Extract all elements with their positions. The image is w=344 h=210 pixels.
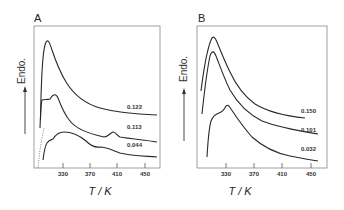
x-axis-title-text: T / K bbox=[88, 185, 112, 197]
panel-a-label: A bbox=[34, 12, 42, 24]
panel-a: A 330 370 410 450 T / K Endo. 0.122 0.11… bbox=[16, 12, 160, 197]
x-axis-title: T / K bbox=[228, 185, 252, 197]
y-axis-title: Endo. bbox=[16, 58, 27, 84]
x-tick-label: 410 bbox=[112, 171, 123, 177]
x-tick-label: 370 bbox=[249, 171, 260, 177]
x-tick-label: 450 bbox=[140, 171, 151, 177]
arrow-head-icon bbox=[23, 86, 27, 92]
dsc-figure: A 330 370 410 450 T / K Endo. 0.122 0.11… bbox=[0, 0, 344, 210]
curve-0-101 bbox=[202, 52, 318, 134]
x-tick-label: 450 bbox=[306, 171, 317, 177]
x-tick-label: 410 bbox=[277, 171, 288, 177]
x-tick-label: 330 bbox=[58, 171, 69, 177]
curve-0-113 bbox=[40, 95, 157, 142]
panel-b: B 330 370 410 450 T / K Endo. 0.150 0.10… bbox=[178, 12, 327, 197]
dotted-baseline bbox=[38, 128, 44, 168]
panel-b-label: B bbox=[198, 12, 205, 24]
curve-0-150 bbox=[201, 37, 305, 118]
curve-label: 0.150 bbox=[301, 108, 317, 114]
arrow-head-icon bbox=[182, 88, 186, 94]
x-tick-label: 330 bbox=[221, 171, 232, 177]
x-axis-title-text: T / K bbox=[228, 185, 252, 197]
y-axis-title: Endo. bbox=[178, 56, 189, 82]
x-axis-title: T / K bbox=[88, 185, 112, 197]
x-tick-label: 370 bbox=[85, 171, 96, 177]
curve-label: 0.122 bbox=[127, 104, 143, 110]
curve-label: 0.101 bbox=[301, 127, 317, 133]
curve-label: 0.044 bbox=[127, 142, 143, 148]
curve-label: 0.032 bbox=[301, 146, 317, 152]
curve-label: 0.113 bbox=[127, 124, 142, 130]
